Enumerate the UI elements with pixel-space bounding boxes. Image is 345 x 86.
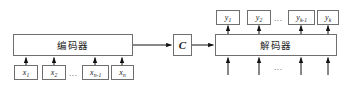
input-box-x2[interactable]: x2 — [42, 65, 66, 80]
encoder-decoder-diagram: 编码器 C 解码器 x1 x2 ... xn-1 xn y1 y2 ... yk… — [0, 0, 345, 86]
output-box-yk-1[interactable]: yk-1 — [288, 10, 315, 25]
decoder-feed-ellipsis: ... — [274, 64, 282, 72]
input-arrows — [26, 58, 122, 66]
input-label-xn: xn — [119, 68, 125, 77]
input-box-xn[interactable]: xn — [111, 65, 134, 80]
decoder-label: 解码器 — [260, 38, 292, 52]
output-box-y2[interactable]: y2 — [247, 10, 271, 25]
encoder-block[interactable]: 编码器 — [13, 34, 133, 56]
input-label-xn-1: xn-1 — [90, 68, 101, 77]
input-label-x1: x1 — [23, 68, 29, 77]
output-label-y1: y1 — [225, 13, 231, 22]
output-label-yk: yk — [325, 13, 331, 22]
input-box-x1[interactable]: x1 — [14, 65, 38, 80]
output-arrows — [228, 26, 328, 35]
output-label-yk-1: yk-1 — [296, 13, 307, 22]
output-box-yk[interactable]: yk — [317, 10, 339, 25]
decoder-block[interactable]: 解码器 — [215, 34, 337, 56]
output-box-y1[interactable]: y1 — [216, 10, 240, 25]
code-vector-label: C — [179, 39, 186, 51]
output-ellipsis: ... — [274, 15, 282, 23]
code-vector-block[interactable]: C — [173, 34, 192, 56]
encoder-label: 编码器 — [57, 38, 89, 52]
input-ellipsis: ... — [69, 70, 77, 78]
input-box-xn-1[interactable]: xn-1 — [82, 65, 109, 80]
output-label-y2: y2 — [256, 13, 262, 22]
input-label-x2: x2 — [51, 68, 57, 77]
